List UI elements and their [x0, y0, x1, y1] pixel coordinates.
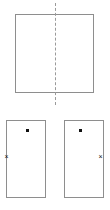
center-dot-marker-right [79, 129, 82, 132]
diagram-canvas: × × [0, 0, 110, 210]
center-dot-marker-left [26, 129, 29, 132]
cross-marker-right: × [97, 153, 104, 160]
cross-marker-left: × [3, 153, 10, 160]
vertical-symmetry-axis [55, 3, 56, 105]
